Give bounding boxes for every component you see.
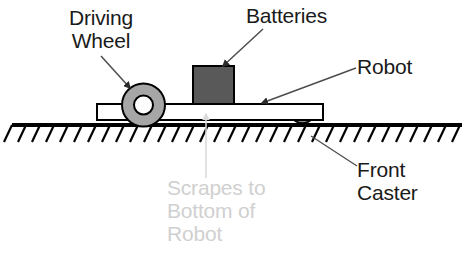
front-caster-label: Front Caster (357, 158, 418, 204)
scrapes-note-label: Scrapes to Bottom of Robot (167, 176, 265, 245)
front-caster-leader (311, 136, 357, 166)
robot-leader (262, 68, 356, 103)
batteries-block (193, 66, 234, 106)
robot-label: Robot (357, 55, 412, 78)
ground-hatched-line (4, 125, 462, 142)
batteries-label: Batteries (246, 4, 327, 27)
driving-wheel-label: Driving Wheel (34, 6, 168, 52)
driving-wheel (122, 84, 165, 127)
diagram-canvas: Driving Wheel Batteries Robot Front Cast… (0, 0, 473, 258)
driving-wheel-leader (101, 56, 130, 88)
batteries-leader (223, 29, 263, 66)
